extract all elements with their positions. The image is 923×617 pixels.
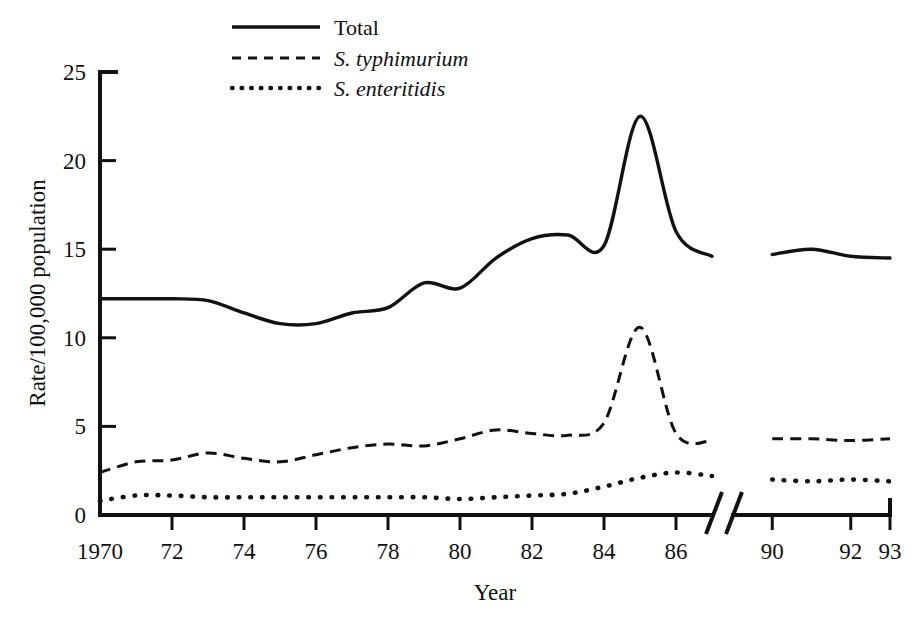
chart-legend: Total S. typhimurium S. enteritidis — [232, 15, 468, 101]
y-axis-line — [100, 72, 116, 515]
series-line-s-typhimurium — [100, 327, 890, 472]
series-line-total — [100, 116, 890, 325]
y-tick-label-20: 20 — [63, 149, 86, 174]
y-tick-marks — [100, 161, 116, 427]
legend-label-s-enteritidis: S. enteritidis — [334, 76, 445, 101]
legend-label-total: Total — [334, 15, 379, 40]
series-line-s-enteritidis — [100, 472, 890, 500]
x-tick-label-72: 72 — [161, 539, 184, 564]
x-axis-line-right-segment — [733, 500, 890, 515]
x-tick-label-76: 76 — [305, 539, 328, 564]
x-tick-label-84: 84 — [593, 539, 617, 564]
x-tick-label-82: 82 — [521, 539, 544, 564]
salmonella-rate-line-chart: 2520151050 19707274767880828486909293 Ra… — [0, 0, 923, 617]
y-tick-label-15: 15 — [63, 237, 86, 262]
x-tick-labels: 19707274767880828486909293 — [77, 539, 902, 564]
legend-label-s-typhimurium: S. typhimurium — [334, 46, 468, 71]
y-tick-label-25: 25 — [63, 60, 86, 85]
x-tick-label-92: 92 — [839, 539, 862, 564]
x-tick-label-90: 90 — [761, 539, 784, 564]
data-series-group — [100, 116, 890, 501]
x-tick-label-1970: 1970 — [77, 539, 123, 564]
x-tick-label-78: 78 — [377, 539, 400, 564]
y-tick-labels: 2520151050 — [63, 60, 86, 528]
y-tick-label-5: 5 — [75, 414, 87, 439]
y-axis-title: Rate/100,000 population — [25, 179, 50, 407]
x-axis-title: Year — [474, 580, 517, 605]
x-tick-label-80: 80 — [449, 539, 472, 564]
x-tick-label-86: 86 — [665, 539, 688, 564]
chart-figure: 2520151050 19707274767880828486909293 Ra… — [0, 0, 923, 617]
y-tick-label-0: 0 — [75, 503, 87, 528]
x-tick-label-74: 74 — [233, 539, 257, 564]
x-tick-marks — [172, 515, 890, 530]
y-tick-label-10: 10 — [63, 326, 86, 351]
x-tick-label-93: 93 — [879, 539, 902, 564]
